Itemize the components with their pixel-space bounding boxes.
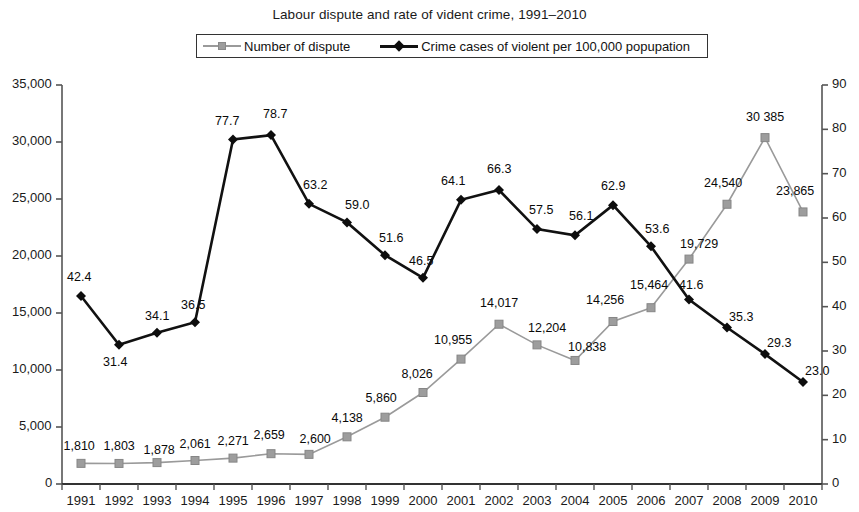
data-label-dispute-2008: 24,540 (704, 176, 742, 190)
data-label-dispute-2004: 10,838 (568, 340, 606, 354)
data-label-crime-2009: 29.3 (767, 336, 791, 350)
x-axis-tick-1992: 1992 (105, 493, 134, 508)
data-label-dispute-2005: 14,256 (586, 293, 624, 307)
y-axis-left-tick-5000: 5,000 (19, 418, 52, 433)
x-axis-tick-1993: 1993 (143, 493, 172, 508)
data-label-dispute-1998: 4,138 (332, 411, 363, 425)
x-axis-tick-1997: 1997 (295, 493, 324, 508)
y-axis-left-tick-10000: 10,000 (12, 361, 52, 376)
data-label-dispute-2003: 12,204 (528, 321, 566, 335)
data-label-crime-1991: 42.4 (67, 270, 91, 284)
y-axis-right-tick-10: 10 (832, 431, 846, 446)
data-label-crime-1995: 77.7 (215, 114, 239, 128)
data-label-dispute-2007: 19,729 (680, 237, 718, 251)
data-label-crime-1997: 63.2 (303, 178, 327, 192)
data-label-dispute-2000: 8,026 (402, 367, 433, 381)
y-axis-right-tick-50: 50 (832, 253, 846, 268)
data-label-crime-2007: 41.6 (679, 278, 703, 292)
x-axis-tick-1996: 1996 (257, 493, 286, 508)
x-axis-tick-2009: 2009 (751, 493, 780, 508)
y-axis-left-tick-30000: 30,000 (12, 133, 52, 148)
x-axis-tick-1994: 1994 (181, 493, 210, 508)
data-label-dispute-1994: 2,061 (180, 437, 211, 451)
data-label-dispute-2010: 23,865 (776, 184, 814, 198)
data-label-crime-1998: 59.0 (345, 198, 369, 212)
data-label-dispute-2009: 30 385 (746, 110, 784, 124)
x-axis-tick-1999: 1999 (371, 493, 400, 508)
data-label-dispute-1995: 2,271 (218, 434, 249, 448)
data-label-dispute-1996: 2,659 (254, 428, 285, 442)
data-label-crime-1992: 31.4 (103, 355, 127, 369)
y-axis-right-tick-90: 90 (832, 76, 846, 91)
data-label-crime-2005: 62.9 (601, 179, 625, 193)
data-label-dispute-1999: 5,860 (366, 391, 397, 405)
x-axis-tick-2002: 2002 (485, 493, 514, 508)
x-axis-tick-2004: 2004 (561, 493, 590, 508)
data-label-dispute-2002: 14,017 (480, 296, 518, 310)
y-axis-right-tick-20: 20 (832, 386, 846, 401)
x-axis-tick-2007: 2007 (675, 493, 704, 508)
x-axis-tick-1995: 1995 (219, 493, 248, 508)
x-axis-tick-2005: 2005 (599, 493, 628, 508)
data-label-crime-2002: 66.3 (487, 162, 511, 176)
data-label-crime-2004: 56.1 (569, 209, 593, 223)
y-axis-right-tick-30: 30 (832, 342, 846, 357)
y-axis-left-tick-35000: 35,000 (12, 76, 52, 91)
y-axis-left-tick-0: 0 (45, 475, 52, 490)
data-label-crime-2001: 64.1 (441, 174, 465, 188)
data-label-dispute-2006: 15,464 (630, 278, 668, 292)
y-axis-right-tick-70: 70 (832, 165, 846, 180)
x-axis-tick-2001: 2001 (447, 493, 476, 508)
y-axis-right-tick-80: 80 (832, 120, 846, 135)
x-axis-tick-2003: 2003 (523, 493, 552, 508)
data-label-crime-2006: 53.6 (645, 222, 669, 236)
data-label-dispute-1997: 2,600 (300, 432, 331, 446)
data-label-crime-1996: 78.7 (263, 107, 287, 121)
data-label-crime-2000: 46.5 (409, 254, 433, 268)
data-label-crime-2008: 35.3 (729, 310, 753, 324)
x-axis-tick-2008: 2008 (713, 493, 742, 508)
data-label-dispute-1993: 1,878 (144, 443, 175, 457)
chart-container: Labour dispute and rate of vident crime,… (0, 0, 859, 512)
data-label-crime-1994: 36.5 (181, 298, 205, 312)
data-label-crime-2003: 57.5 (529, 203, 553, 217)
y-axis-left-tick-15000: 15,000 (12, 304, 52, 319)
x-axis-tick-1991: 1991 (67, 493, 96, 508)
x-axis-tick-2006: 2006 (637, 493, 666, 508)
data-label-crime-1993: 34.1 (145, 309, 169, 323)
data-label-dispute-2001: 10,955 (434, 333, 472, 347)
x-axis-tick-2000: 2000 (409, 493, 438, 508)
y-axis-left-tick-20000: 20,000 (12, 247, 52, 262)
data-label-dispute-1992: 1,803 (104, 439, 135, 453)
y-axis-left-tick-25000: 25,000 (12, 190, 52, 205)
y-axis-right-tick-0: 0 (832, 475, 839, 490)
data-label-crime-2010: 23.0 (805, 364, 829, 378)
x-axis-tick-1998: 1998 (333, 493, 362, 508)
y-axis-right-tick-60: 60 (832, 209, 846, 224)
y-axis-right-tick-40: 40 (832, 298, 846, 313)
data-label-dispute-1991: 1,810 (64, 439, 95, 453)
x-axis-tick-2010: 2010 (789, 493, 818, 508)
data-label-crime-1999: 51.6 (379, 231, 403, 245)
